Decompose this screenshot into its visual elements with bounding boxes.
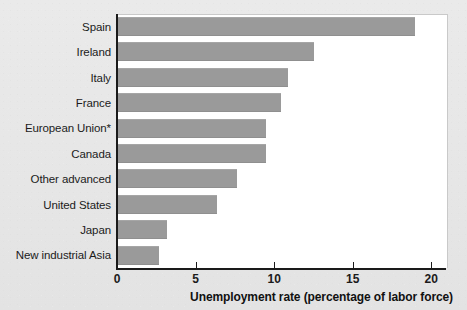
x-tick-mark (353, 262, 354, 269)
x-tick-label: 5 (192, 272, 199, 286)
x-tick-label: 0 (114, 272, 121, 286)
x-tick-mark (196, 262, 197, 269)
chart-figure: SpainIrelandItalyFranceEuropean Union*Ca… (0, 0, 467, 310)
x-tick-mark (117, 262, 118, 269)
x-axis-title: Unemployment rate (percentage of labor f… (190, 290, 453, 304)
x-tick-label: 15 (346, 272, 359, 286)
value-axis: 05101520 (0, 0, 467, 310)
x-tick-label: 10 (267, 272, 280, 286)
x-tick-label: 20 (425, 272, 438, 286)
x-tick-mark (274, 262, 275, 269)
x-tick-mark (431, 262, 432, 269)
